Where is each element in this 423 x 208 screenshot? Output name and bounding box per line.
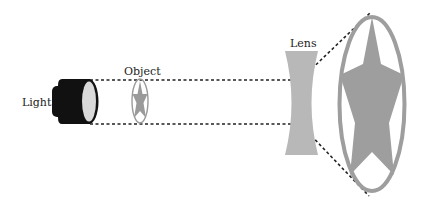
flashlight-icon [52,79,99,124]
light-label: Light [22,96,52,109]
object-star-icon [132,79,148,123]
object-label: Object [124,65,161,78]
lens-label: Lens [290,37,317,50]
diagram-canvas: Light Object Lens [0,0,423,208]
image-star-icon [340,17,405,191]
concave-lens [285,51,318,155]
optics-diagram: Light Object Lens [0,0,423,208]
